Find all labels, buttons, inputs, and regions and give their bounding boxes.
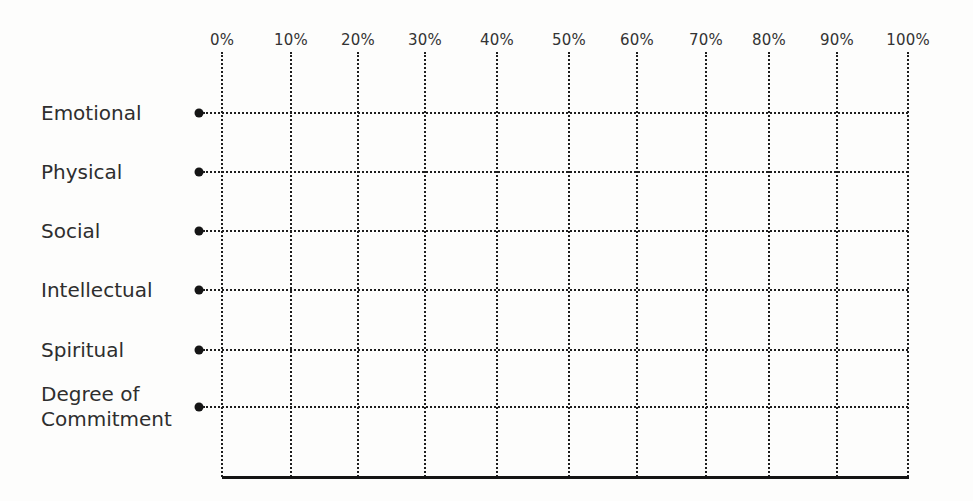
row-dotted-line bbox=[203, 406, 908, 408]
vertical-gridline bbox=[636, 52, 638, 477]
vertical-gridline bbox=[290, 52, 292, 477]
vertical-gridline bbox=[424, 52, 426, 477]
row-dotted-line bbox=[203, 289, 908, 291]
vertical-gridline bbox=[907, 52, 909, 477]
vertical-gridline bbox=[357, 52, 359, 477]
row-label: Physical bbox=[41, 160, 122, 185]
vertical-gridline bbox=[705, 52, 707, 477]
row-label: Degree of Commitment bbox=[41, 382, 172, 432]
x-tick-label: 60% bbox=[620, 31, 654, 49]
row-dotted-line bbox=[203, 230, 908, 232]
vertical-gridline bbox=[836, 52, 838, 477]
row-label: Emotional bbox=[41, 101, 141, 126]
row-dotted-line bbox=[203, 171, 908, 173]
row-label: Intellectual bbox=[41, 278, 152, 303]
row-dotted-line bbox=[203, 112, 908, 114]
x-tick-label: 100% bbox=[886, 31, 930, 49]
x-tick-label: 80% bbox=[752, 31, 786, 49]
x-tick-label: 10% bbox=[274, 31, 308, 49]
x-tick-label: 50% bbox=[552, 31, 586, 49]
x-tick-label: 0% bbox=[210, 31, 234, 49]
x-tick-label: 40% bbox=[480, 31, 514, 49]
row-label: Spiritual bbox=[41, 338, 124, 363]
vertical-gridline bbox=[496, 52, 498, 477]
x-tick-label: 20% bbox=[341, 31, 375, 49]
x-tick-label: 90% bbox=[820, 31, 854, 49]
vertical-gridline bbox=[768, 52, 770, 477]
x-tick-label: 70% bbox=[689, 31, 723, 49]
vertical-gridline bbox=[221, 52, 223, 477]
x-axis-baseline bbox=[222, 476, 909, 479]
vertical-gridline bbox=[568, 52, 570, 477]
x-tick-label: 30% bbox=[408, 31, 442, 49]
row-dotted-line bbox=[203, 349, 908, 351]
row-label: Social bbox=[41, 219, 100, 244]
commitment-worksheet-chart: 0%10%20%30%40%50%60%70%80%90%100% Emotio… bbox=[0, 0, 973, 501]
